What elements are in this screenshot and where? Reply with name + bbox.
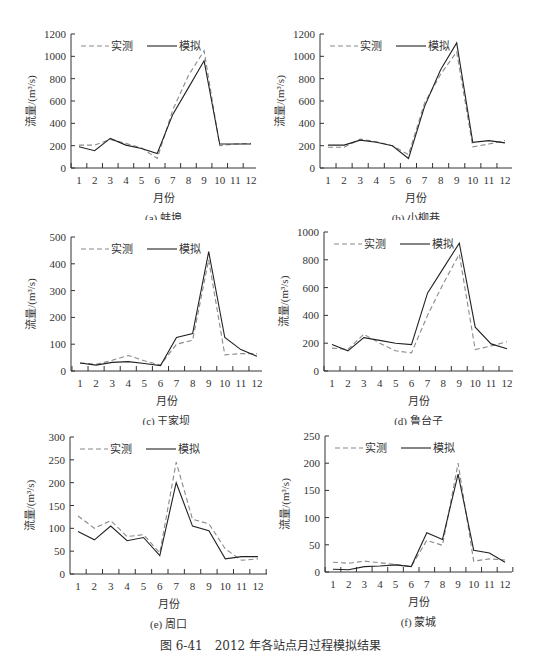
x-tick-label: 12 <box>502 377 513 389</box>
y-tick-label: 100 <box>49 522 66 534</box>
y-tick-label: 250 <box>49 454 66 466</box>
x-tick-label: 9 <box>206 377 212 389</box>
chart-panel-d: 02004006008001000123456789101112月份(d) 鲁台… <box>270 210 541 425</box>
x-tick-label: 10 <box>470 377 482 389</box>
y-tick-label: 200 <box>50 311 67 323</box>
observed-series-line <box>332 254 507 353</box>
chart-b-svg: 020040060080010001200123456789101112月份(b… <box>270 0 541 220</box>
y-tick-label: 150 <box>304 484 321 496</box>
legend-simulated-label: 模拟 <box>178 442 200 455</box>
x-tick-label: 5 <box>393 377 399 389</box>
x-axis-label: 月份 <box>408 395 430 407</box>
y-tick-label: 1000 <box>293 50 316 62</box>
y-axis-label: 流量/(m³/s) <box>24 278 38 330</box>
y-tick-label: 200 <box>303 337 320 349</box>
x-tick-label: 1 <box>75 580 81 592</box>
y-tick-label: 800 <box>50 73 67 85</box>
x-tick-label: 7 <box>174 377 180 389</box>
x-tick-label: 6 <box>409 377 415 389</box>
x-tick-label: 4 <box>374 174 380 186</box>
x-tick-label: 11 <box>484 174 495 186</box>
x-tick-label: 11 <box>484 578 495 590</box>
legend-observed-label: 实测 <box>111 242 133 255</box>
simulated-series-line <box>332 243 507 351</box>
y-tick-label: 200 <box>299 140 316 152</box>
y-tick-label: 300 <box>49 431 66 443</box>
legend-observed-label: 实测 <box>365 441 387 454</box>
x-tick-label: 7 <box>422 174 428 186</box>
x-tick-label: 10 <box>468 578 480 590</box>
legend-simulated-label: 模拟 <box>433 441 455 454</box>
x-tick-label: 9 <box>455 578 461 590</box>
x-tick-label: 2 <box>346 578 352 590</box>
y-tick-label: 600 <box>50 95 67 107</box>
chart-panel-f: 050100150200250123456789101112月份(f) 蒙城流量… <box>270 420 541 635</box>
x-tick-label: 4 <box>123 174 129 186</box>
x-tick-label: 11 <box>236 377 247 389</box>
x-tick-label: 10 <box>467 174 479 186</box>
x-tick-label: 3 <box>357 174 363 186</box>
y-tick-label: 300 <box>50 285 67 297</box>
y-tick-label: 600 <box>299 95 316 107</box>
x-tick-label: 8 <box>190 377 196 389</box>
x-axis-label: 月份 <box>156 395 178 407</box>
x-tick-label: 3 <box>109 377 115 389</box>
y-axis-label: 流量/(m³/s) <box>278 478 292 530</box>
y-tick-label: 1200 <box>44 28 67 40</box>
y-tick-label: 1000 <box>44 50 67 62</box>
simulated-series-line <box>78 483 258 559</box>
x-tick-label: 4 <box>377 578 383 590</box>
chart-panel-b: 020040060080010001200123456789101112月份(b… <box>270 0 541 220</box>
x-tick-label: 2 <box>93 377 99 389</box>
x-tick-label: 3 <box>362 578 368 590</box>
chart-panel-a: 020040060080010001200123456789101112月份(a… <box>0 0 270 220</box>
y-tick-label: 400 <box>50 258 67 270</box>
chart-a-svg: 020040060080010001200123456789101112月份(a… <box>0 0 270 220</box>
x-tick-label: 10 <box>219 377 231 389</box>
legend-simulated-label: 模拟 <box>428 39 450 52</box>
legend-observed-label: 实测 <box>360 39 382 52</box>
x-tick-label: 6 <box>154 174 160 186</box>
observed-series-line <box>80 260 257 365</box>
chart-f-svg: 050100150200250123456789101112月份(f) 蒙城流量… <box>270 420 541 635</box>
y-tick-label: 400 <box>50 117 67 129</box>
y-tick-label: 800 <box>299 73 316 85</box>
x-tick-label: 8 <box>438 174 444 186</box>
y-tick-label: 0 <box>61 365 67 377</box>
x-tick-label: 10 <box>220 580 232 592</box>
legend-simulated-label: 模拟 <box>179 242 201 255</box>
x-tick-label: 2 <box>341 174 347 186</box>
y-tick-label: 50 <box>309 539 321 551</box>
x-tick-label: 10 <box>214 174 226 186</box>
chart-d-svg: 02004006008001000123456789101112月份(d) 鲁台… <box>270 210 541 425</box>
observed-series-line <box>328 52 505 155</box>
y-tick-label: 1200 <box>293 28 316 40</box>
x-tick-label: 12 <box>252 377 263 389</box>
x-tick-label: 1 <box>329 377 335 389</box>
y-tick-label: 500 <box>50 231 67 243</box>
y-tick-label: 100 <box>304 512 321 524</box>
x-tick-label: 8 <box>186 174 192 186</box>
y-tick-label: 0 <box>310 162 316 174</box>
chart-e-svg: 050100150200250300123456789101112月份(e) 周… <box>0 420 270 635</box>
x-tick-label: 2 <box>92 580 98 592</box>
x-tick-label: 11 <box>230 174 241 186</box>
y-axis-label: 流量/(m³/s) <box>24 75 38 127</box>
chart-panel-c: 0100200300400500123456789101112月份(c) 王家坝… <box>0 210 270 425</box>
x-tick-label: 8 <box>440 578 446 590</box>
x-tick-label: 5 <box>393 578 399 590</box>
y-tick-label: 400 <box>299 117 316 129</box>
x-tick-label: 6 <box>406 174 412 186</box>
observed-series-line <box>78 462 258 560</box>
legend-simulated-label: 模拟 <box>179 39 201 52</box>
y-tick-label: 0 <box>61 162 67 174</box>
simulated-series-line <box>333 474 505 570</box>
x-tick-label: 12 <box>253 580 264 592</box>
x-tick-label: 9 <box>454 174 460 186</box>
y-tick-label: 200 <box>304 457 321 469</box>
y-tick-label: 0 <box>315 566 321 578</box>
y-tick-label: 150 <box>49 500 66 512</box>
x-tick-label: 1 <box>325 174 331 186</box>
legend-observed-label: 实测 <box>110 442 132 455</box>
y-tick-label: 1000 <box>297 226 320 238</box>
